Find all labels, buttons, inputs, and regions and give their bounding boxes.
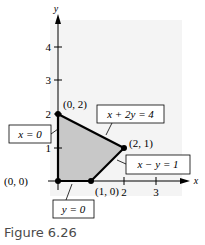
vertex-label-0-0: (0, 0) (4, 175, 28, 188)
y-axis-arrow-icon (55, 14, 61, 24)
callout-x-eq-0: x = 0 (9, 125, 58, 143)
x-tick-3: 3 (153, 186, 159, 198)
vertex-label-1-0: (1, 0) (95, 185, 119, 198)
x-tick-2: 2 (121, 186, 127, 198)
callout-x-minus-y-eq-1: x − y = 1 (117, 155, 190, 174)
y-tick-4: 4 (46, 41, 52, 53)
vertex-1-0 (88, 178, 94, 184)
y-tick-1: 1 (46, 142, 52, 154)
x-axis-label: x (193, 175, 199, 186)
vertex-label-0-2: (0, 2) (63, 98, 87, 111)
vertex-2-1 (121, 145, 127, 151)
figure-caption: Figure 6.26 (4, 225, 77, 240)
feasible-region-diagram: y x 1 2 3 4 2 3 (0, 0) (0, 2) (2, 1) (1,… (0, 0, 205, 225)
svg-text:x = 0: x = 0 (17, 128, 42, 140)
svg-text:x + 2y = 4: x + 2y = 4 (106, 108, 154, 120)
vertex-0-2 (55, 111, 61, 117)
y-tick-3: 3 (46, 74, 52, 86)
y-axis-label: y (53, 3, 59, 14)
svg-text:y = 0: y = 0 (61, 203, 86, 215)
x-axis-arrow-icon (180, 178, 190, 184)
vertex-0-0 (55, 178, 61, 184)
svg-text:x − y = 1: x − y = 1 (136, 158, 178, 170)
y-tick-2: 2 (46, 108, 52, 120)
vertex-label-2-1: (2, 1) (129, 137, 153, 150)
